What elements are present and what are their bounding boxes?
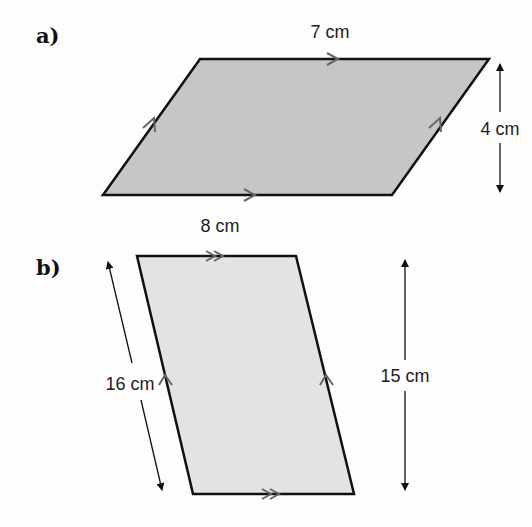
diagram-stage: a) 7 cm 8 cm 4 cm b) [0,0,532,527]
height-label: 4 cm [480,119,519,139]
slanted-side-label: 16 cm [105,374,154,394]
top-side-label: 7 cm [310,22,349,42]
figure-b-label: b) [36,255,61,280]
figure-b: b) 16 cm 15 cm [36,251,430,499]
figure-a: a) 7 cm 8 cm 4 cm [36,22,520,236]
parallelogram-b [137,256,354,494]
figure-a-label: a) [36,23,60,48]
height-b-label: 15 cm [380,366,429,386]
bottom-side-label: 8 cm [200,216,239,236]
